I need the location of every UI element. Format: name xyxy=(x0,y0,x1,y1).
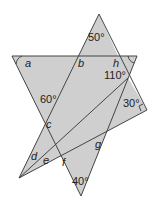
angle-label-50: 50° xyxy=(88,31,105,43)
angle-label-110: 110° xyxy=(104,69,126,81)
angle-label-60: 60° xyxy=(40,93,57,105)
angle-label-g: g xyxy=(95,138,102,150)
angle-label-e: e xyxy=(43,154,49,166)
angle-label-b: b xyxy=(78,57,84,69)
angle-label-40: 40° xyxy=(72,175,89,187)
angle-label-c: c xyxy=(46,118,52,130)
geometry-diagram: 50° a b h 110° 60° 30° c g d e f 40° xyxy=(0,0,160,217)
angle-label-30: 30° xyxy=(123,97,140,109)
angle-label-d: d xyxy=(31,150,38,162)
angle-label-a: a xyxy=(25,57,31,69)
angle-label-h: h xyxy=(113,57,119,69)
